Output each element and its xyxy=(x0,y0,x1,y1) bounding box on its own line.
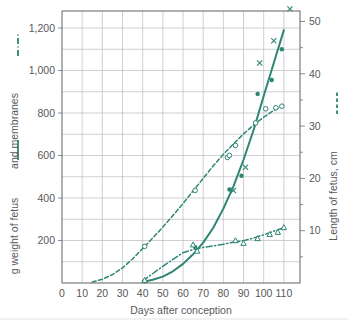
data-point-marker xyxy=(253,121,258,126)
data-point-marker xyxy=(280,47,284,51)
y-tick-label-left: 400 xyxy=(37,192,55,204)
data-point-marker xyxy=(142,244,147,249)
data-point-marker xyxy=(233,143,238,148)
left-axis-dashdot-label: and membranes xyxy=(8,93,20,169)
x-tick-label: 40 xyxy=(137,287,149,299)
data-point-marker xyxy=(239,173,243,177)
y-tick-label-right: 40 xyxy=(309,68,321,80)
x-tick-label: 50 xyxy=(157,287,169,299)
fetal-growth-chart: 0102030405060708090100110 2004006008001,… xyxy=(0,0,348,325)
x-tick-label: 20 xyxy=(96,287,108,299)
data-point-marker xyxy=(280,104,285,109)
y-tick-label-left: 1,000 xyxy=(29,64,55,76)
y-tick-label-left: 600 xyxy=(37,149,55,161)
y-tick-label-left: 200 xyxy=(37,234,55,246)
right-axis-label: Length of fetus, cm xyxy=(327,151,339,241)
left-axis-solid-label: g weight of fetus xyxy=(8,198,20,274)
y-tick-label-right: 10 xyxy=(309,224,321,236)
data-point-marker xyxy=(227,153,232,158)
x-tick-label: 80 xyxy=(218,287,230,299)
data-point-marker xyxy=(270,78,274,82)
y-tick-label-right: 50 xyxy=(309,15,321,27)
x-axis-title: Days after conception xyxy=(130,304,232,316)
x-tick-label: 60 xyxy=(177,287,189,299)
data-point-marker xyxy=(263,107,268,112)
x-tick-label: 100 xyxy=(255,287,273,299)
x-tick-label: 110 xyxy=(275,287,292,299)
data-point-marker xyxy=(273,105,278,110)
y-tick-label-right: 30 xyxy=(309,120,321,132)
data-point-marker xyxy=(193,188,198,193)
y-tick-label-left: 800 xyxy=(37,107,55,119)
y-tick-label-left: 1,200 xyxy=(29,22,55,34)
y-tick-label-right: 20 xyxy=(309,172,321,184)
x-tick-label: 10 xyxy=(76,287,88,299)
x-tick-label: 70 xyxy=(197,287,209,299)
x-tick-label: 90 xyxy=(238,287,250,299)
chart-background xyxy=(0,0,348,325)
x-tick-label: 0 xyxy=(59,287,65,299)
data-point-marker xyxy=(255,92,259,96)
x-tick-label: 30 xyxy=(117,287,129,299)
